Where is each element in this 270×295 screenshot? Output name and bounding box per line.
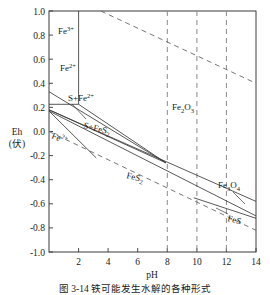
x-axis-tick-labels: 2 4 6 8 10 12 14 xyxy=(76,257,261,267)
fe3-fe2o3-boundary xyxy=(79,104,166,163)
y-tick-label: 1.0 xyxy=(33,7,45,17)
y-tick-label: 0.0 xyxy=(33,127,45,137)
y-tick-label: -0.2 xyxy=(30,151,45,161)
vertical-dashed-lines xyxy=(167,11,226,252)
fes-lower-boundary xyxy=(194,198,256,219)
x-tick-label: 6 xyxy=(135,257,140,267)
label-fe2o3: Fe2O3 xyxy=(172,102,194,114)
y-tick-label: 0.8 xyxy=(33,31,45,41)
fe3-plus-box xyxy=(49,11,79,104)
y-axis-title-line1: Eh xyxy=(12,127,23,137)
label-fe3o4: Fe3O4 xyxy=(218,180,241,192)
y-tick-label: 0.2 xyxy=(33,103,45,113)
x-tick-label: 8 xyxy=(165,257,170,267)
y-axis-tick-labels: 1.0 0.8 0.6 0.4 0.2 0.0 -0.2 -0.4 -0.6 -… xyxy=(30,7,45,258)
x-tick-label: 2 xyxy=(76,257,81,267)
s-fe2-leader-line xyxy=(72,104,86,119)
y-tick-label: -0.6 xyxy=(30,199,45,209)
label-fe2-plus-upper: Fe2+ xyxy=(60,62,76,74)
label-fes2: FeS2 xyxy=(125,170,145,185)
x-tick-label: 4 xyxy=(106,257,111,267)
label-fe2-plus-lower: Fe2+ xyxy=(50,129,69,146)
x-tick-label: 10 xyxy=(192,257,202,267)
x-tick-label: 12 xyxy=(222,257,232,267)
y-tick-label: -0.4 xyxy=(30,175,45,185)
label-fes: FeS xyxy=(227,213,243,226)
y-tick-label: -1.0 xyxy=(30,248,45,258)
phase-boundary-lines xyxy=(49,92,256,219)
y-axis-title-line2: (伏) xyxy=(9,138,25,150)
y-axis-title: Eh (伏) xyxy=(9,127,25,150)
label-s-fe2-plus: S+Fe2+ xyxy=(68,92,94,104)
x-axis-title: pH xyxy=(146,270,158,280)
x-tick-label: 14 xyxy=(251,257,261,267)
label-fe3-plus: Fe3+ xyxy=(58,25,74,37)
plot-frame xyxy=(49,11,256,252)
y-tick-label: 0.4 xyxy=(33,79,45,89)
figure-caption: 图 3-14 铁可能发生水解的各种形式 xyxy=(0,283,270,295)
water-upper-stability-line xyxy=(101,11,256,83)
fes2-fes-boundary xyxy=(49,111,256,216)
y-tick-label: 0.6 xyxy=(33,55,45,65)
y-tick-label: -0.8 xyxy=(30,223,45,233)
phase-labels: Fe3+ Fe2+ S+Fe2+ S+FeS2 Fe2+ Fe2O3 FeS2 … xyxy=(50,25,242,227)
